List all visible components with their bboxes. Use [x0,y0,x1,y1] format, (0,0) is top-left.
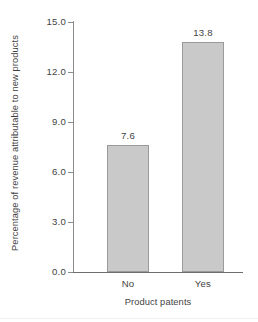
y-tick-label: 6.0 [26,167,66,177]
y-tick-label: 0.0 [26,267,66,277]
x-axis-title: Product patents [73,297,243,307]
bar-yes[interactable] [182,42,224,272]
y-tick-label: 12.0 [26,67,66,77]
y-tick-label: 9.0 [26,117,66,127]
bar-value-yes: 13.8 [177,27,229,38]
bar-no[interactable] [107,145,149,272]
bar-chart: Percentage of revenue attributable to ne… [0,0,258,322]
y-axis-title: Percentage of revenue attributable to ne… [10,0,20,288]
x-axis-line [73,272,243,273]
x-category-label-yes: Yes [177,278,229,289]
y-tick-label: 15.0 [26,17,66,27]
scan-artifact-line [0,318,258,319]
bar-value-no: 7.6 [102,130,154,141]
y-tick-label: 3.0 [26,217,66,227]
y-axis-line [73,21,74,273]
x-category-label-no: No [102,278,154,289]
